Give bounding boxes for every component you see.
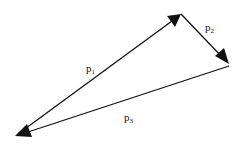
vector-p2-line <box>181 14 222 57</box>
vector-p1-line <box>18 21 172 134</box>
arrowhead-p2-icon <box>215 48 229 64</box>
arrowhead-p1-icon <box>167 14 181 27</box>
vector-p2: p2 <box>181 14 229 64</box>
label-p3: p3 <box>124 111 134 125</box>
vector-p3: p3 <box>15 66 229 137</box>
label-p1: p1 <box>86 62 96 76</box>
vector-diagram: p1 p2 p3 <box>0 0 244 159</box>
vector-p1: p1 <box>18 14 181 134</box>
label-p2: p2 <box>205 21 215 35</box>
